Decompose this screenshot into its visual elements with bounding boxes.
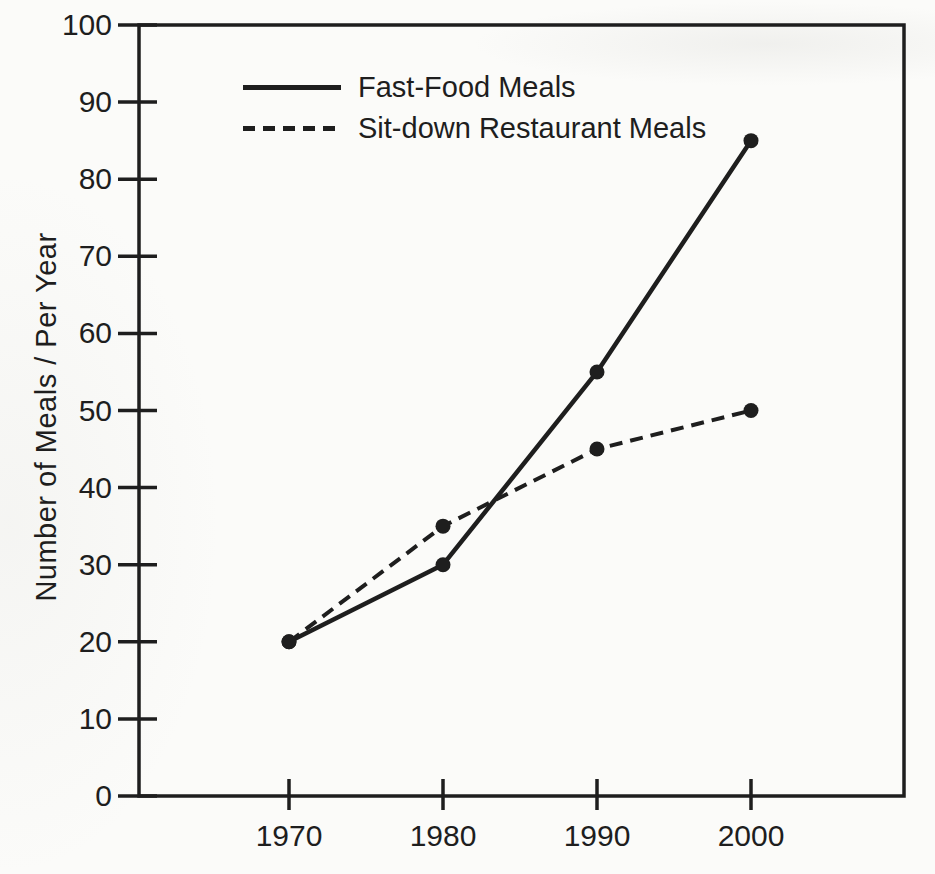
x-axis-tick-label: 1980 [410, 819, 477, 852]
dashed-line-swatch [243, 126, 341, 131]
y-axis-tick-label: 40 [79, 471, 112, 504]
data-point-marker-sit-down-restaurant-meals [436, 519, 451, 534]
y-axis-title: Number of Meals / Per Year [30, 232, 63, 601]
y-axis-tick-label: 50 [79, 394, 112, 427]
y-axis-tick-label: 70 [79, 239, 112, 272]
solid-line-swatch [243, 85, 341, 90]
y-axis-tick-label: 90 [79, 85, 112, 118]
legend: Fast-Food Meals Sit-down Restaurant Meal… [243, 67, 706, 149]
data-point-marker-fast-food-meals [436, 557, 451, 572]
data-point-marker-sit-down-restaurant-meals [744, 403, 759, 418]
data-point-marker-fast-food-meals [744, 133, 759, 148]
legend-label-sit-down: Sit-down Restaurant Meals [358, 112, 706, 145]
data-point-marker-fast-food-meals [590, 364, 605, 379]
y-axis-tick-label: 20 [79, 625, 112, 658]
x-axis-tick-label: 2000 [718, 819, 785, 852]
y-axis-tick-label: 60 [79, 316, 112, 349]
data-point-marker-sit-down-restaurant-meals [282, 634, 297, 649]
line-chart-figure: 01020304050607080901001970198019902000 N… [0, 0, 935, 874]
legend-item-fast-food: Fast-Food Meals [243, 67, 706, 108]
legend-label-fast-food: Fast-Food Meals [358, 71, 576, 104]
y-axis-tick-label: 0 [95, 779, 112, 812]
data-point-marker-sit-down-restaurant-meals [590, 442, 605, 457]
series-line-fast-food-meals [289, 141, 751, 642]
y-axis-tick-label: 30 [79, 548, 112, 581]
legend-item-sit-down: Sit-down Restaurant Meals [243, 108, 706, 149]
y-axis-tick-label: 10 [79, 702, 112, 735]
x-axis-tick-label: 1990 [564, 819, 631, 852]
y-axis-tick-label: 100 [62, 8, 112, 41]
x-axis-tick-label: 1970 [256, 819, 323, 852]
y-axis-tick-label: 80 [79, 162, 112, 195]
